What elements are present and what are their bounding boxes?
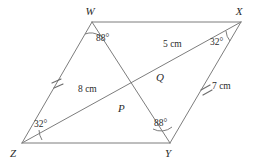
geometry-canvas: W X Y Z Q P 88° 32° 88° 32° 5 cm 8 cm 7 … [0, 0, 256, 165]
point-label-P: P [117, 102, 125, 114]
vertex-label-W: W [85, 5, 95, 17]
vertex-label-X: X [235, 5, 244, 17]
tick-WZ [52, 79, 63, 88]
vertex-label-Y: Y [165, 147, 173, 159]
vertex-label-Z: Z [10, 147, 17, 159]
length-label-QX: 5 cm [163, 39, 182, 49]
length-label-ZQ: 8 cm [78, 84, 97, 94]
angle-arc-Z [39, 130, 42, 140]
angle-label-Y: 88° [154, 118, 168, 128]
angle-arc-X [226, 31, 230, 41]
geometry-figure: W X Y Z Q P 88° 32° 88° 32° 5 cm 8 cm 7 … [0, 0, 256, 165]
segment-ZW [22, 22, 92, 143]
point-label-Q: Q [156, 71, 164, 83]
length-label-XY: 7 cm [212, 81, 231, 91]
angle-label-W: 88° [96, 33, 110, 43]
angle-label-X: 32° [210, 37, 224, 47]
angle-label-Z: 32° [34, 119, 48, 129]
